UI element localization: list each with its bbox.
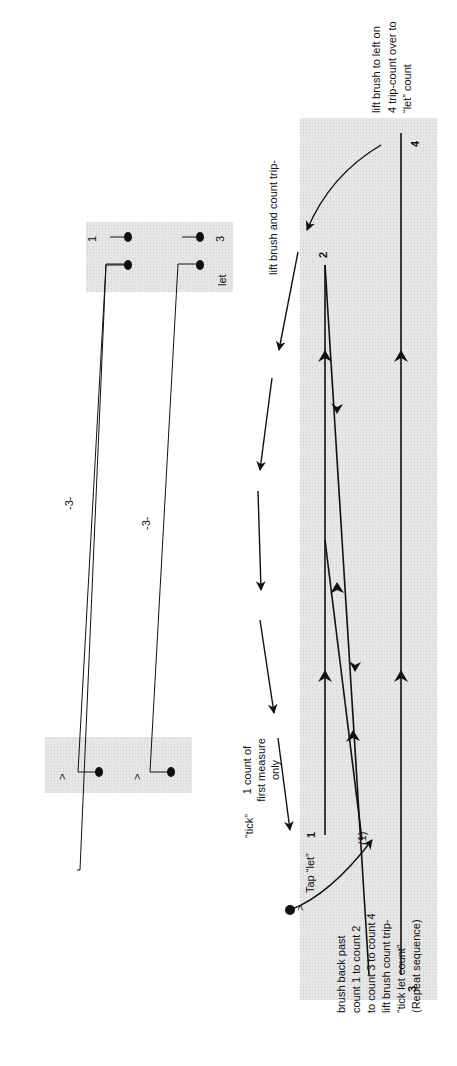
count-label-3: 3 [214, 236, 226, 242]
annotation-first-measure: 1 count of first measure only [241, 738, 281, 802]
count-1: 1 [305, 832, 317, 838]
svg-text:first measure: first measure [255, 738, 267, 802]
brush-area [300, 118, 437, 1000]
svg-text:4 trip-count over to: 4 trip-count over to [386, 21, 398, 113]
count-2: 2 [317, 252, 329, 258]
count-label-let: let [216, 274, 228, 286]
svg-text:lift brush count trip-: lift brush count trip- [380, 919, 392, 1013]
accent-mark-upper: > [56, 774, 68, 780]
notation-box-top [86, 222, 233, 292]
svg-text:only: only [269, 759, 281, 780]
svg-text:“tick let count”: “tick let count” [395, 944, 407, 1013]
svg-text:brush back past: brush back past [335, 935, 347, 1013]
svg-text:(Repeat sequence): (Repeat sequence) [410, 919, 422, 1013]
annotation-tap-accent: > [294, 905, 306, 911]
accent-mark-lower: > [131, 774, 143, 780]
note-heads [95, 232, 204, 777]
annotation-top-right: lift brush to left on 4 trip-count over … [370, 21, 413, 113]
brush-pattern-diagram: 1 3 let -3- -3- > > 1 2 3 4 (1) [0, 0, 457, 1066]
svg-text:1 count of: 1 count of [241, 745, 253, 794]
notation-box-bottom [45, 737, 192, 793]
svg-text:count 1 to count 2: count 1 to count 2 [350, 926, 362, 1013]
annotation-tap: Tap “let” [304, 853, 316, 893]
svg-text:to count 3 to count 4: to count 3 to count 4 [365, 913, 377, 1013]
svg-text:“let” count: “let” count [401, 64, 413, 113]
annotation-lift-brush: lift brush and count trip- [267, 160, 279, 275]
triplet-label-lower: -3- [140, 516, 152, 530]
count-1-paren: (1) [356, 832, 368, 845]
triplet-label-upper: -3- [63, 496, 75, 510]
svg-text:lift brush to left on: lift brush to left on [370, 26, 382, 113]
annotation-tick: “tick” [243, 814, 255, 838]
count-4: 4 [409, 140, 421, 147]
count-label-1: 1 [86, 236, 98, 242]
